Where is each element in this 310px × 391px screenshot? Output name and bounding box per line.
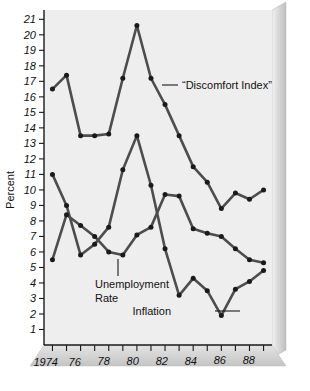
data-point: [233, 246, 238, 251]
data-point: [163, 192, 168, 197]
data-point: [64, 73, 69, 78]
data-point: [205, 231, 210, 236]
data-point: [50, 87, 55, 92]
data-point: [177, 293, 182, 298]
data-point: [205, 288, 210, 293]
data-point: [261, 260, 266, 265]
y-axis-title: Percent: [4, 171, 16, 209]
y-axis-ticks: [39, 19, 44, 329]
data-point: [163, 102, 168, 107]
data-point: [177, 133, 182, 138]
data-point: [106, 249, 111, 254]
data-point: [247, 197, 252, 202]
data-point: [50, 172, 55, 177]
x-tick-label: 1974: [33, 356, 57, 368]
plot-area-background: [44, 10, 272, 345]
data-point: [261, 187, 266, 192]
y-tick-label: 17: [24, 75, 37, 87]
y-tick-label: 12: [24, 153, 36, 165]
data-point: [205, 180, 210, 185]
y-tick-label: 8: [30, 215, 37, 227]
x-tick-label: 82: [156, 355, 168, 367]
y-tick-label: 21: [23, 13, 36, 25]
data-point: [148, 225, 153, 230]
y-tick-label: 6: [30, 246, 37, 258]
y-tick-label: 1: [30, 323, 36, 335]
data-point: [120, 253, 125, 258]
data-point: [134, 133, 139, 138]
data-point: [64, 212, 69, 217]
data-point: [177, 194, 182, 199]
y-tick-label: 4: [30, 277, 36, 289]
y-tick-label: 9: [30, 199, 36, 211]
y-tick-label: 7: [30, 230, 37, 242]
data-point: [191, 276, 196, 281]
data-point: [191, 226, 196, 231]
discomfort-index-label: “Discomfort Index”: [182, 79, 272, 91]
x-tick-label: 80: [127, 355, 140, 367]
data-point: [78, 223, 83, 228]
y-tick-label: 10: [24, 184, 37, 196]
x-tick-label: 84: [185, 355, 197, 367]
data-point: [233, 191, 238, 196]
y-tick-label: 11: [25, 168, 36, 180]
data-point: [247, 279, 252, 284]
discomfort-index-line-chart: 123456789101112131415161718192021 197476…: [0, 0, 310, 391]
data-point: [120, 167, 125, 172]
inflation-label: Inflation: [132, 305, 171, 317]
x-tick-label: 76: [69, 356, 82, 368]
data-point: [219, 234, 224, 239]
y-tick-label: 13: [24, 137, 37, 149]
y-tick-label: 19: [24, 44, 36, 56]
data-point: [64, 203, 69, 208]
data-point: [120, 76, 125, 81]
data-point: [106, 225, 111, 230]
x-tick-label: 86: [214, 354, 227, 366]
y-tick-label: 18: [24, 60, 37, 72]
y-axis-tick-labels: 123456789101112131415161718192021: [23, 13, 37, 335]
data-point: [92, 242, 97, 247]
data-point: [92, 234, 97, 239]
data-point: [233, 287, 238, 292]
y-tick-label: 20: [23, 29, 37, 41]
data-point: [92, 133, 97, 138]
y-tick-label: 2: [29, 308, 36, 320]
data-point: [50, 257, 55, 262]
data-point: [247, 257, 252, 262]
data-point: [219, 206, 224, 211]
data-point: [134, 232, 139, 237]
data-point: [78, 133, 83, 138]
data-point: [261, 268, 266, 273]
chart-container: 123456789101112131415161718192021 197476…: [0, 0, 310, 391]
y-tick-label: 5: [30, 261, 37, 273]
data-point: [78, 253, 83, 258]
data-point: [191, 164, 196, 169]
unemployment-rate-label-2: Rate: [95, 292, 118, 304]
y-tick-label: 16: [24, 91, 37, 103]
unemployment-rate-label: Unemployment: [95, 278, 169, 290]
x-tick-label: 78: [98, 355, 111, 367]
data-point: [163, 246, 168, 251]
data-point: [106, 132, 111, 137]
data-point: [219, 313, 224, 318]
data-point: [134, 23, 139, 28]
data-point: [148, 183, 153, 188]
data-point: [148, 76, 153, 81]
y-tick-label: 15: [24, 106, 37, 118]
x-tick-label: 88: [243, 354, 256, 366]
y-tick-label: 3: [30, 292, 37, 304]
y-tick-label: 14: [24, 122, 36, 134]
panel-right-bevel: [272, 2, 286, 358]
